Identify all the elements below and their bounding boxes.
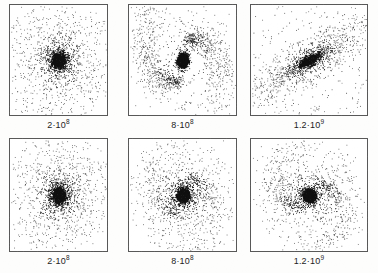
panel-bottom-middle-time-exponent: 8: [190, 254, 194, 261]
panel-top-left-scatter: [10, 5, 107, 115]
panel-top-right: [250, 4, 368, 116]
panel-bottom-right-time-label: 1.2·109: [250, 256, 368, 266]
panel-top-right-time-mantissa: 1.2·10: [294, 120, 321, 130]
figure-root: 2·1088·1081.2·1092·1088·1081.2·109: [0, 0, 378, 273]
panel-top-middle-time-exponent: 8: [190, 118, 194, 125]
panel-top-right-time-exponent: 9: [320, 118, 324, 125]
panel-top-left-time-exponent: 8: [66, 118, 70, 125]
panel-top-right-scatter: [251, 5, 367, 115]
panel-bottom-right-time-mantissa: 1.2·10: [294, 256, 321, 266]
panel-bottom-left-time-exponent: 8: [66, 254, 70, 261]
panel-top-middle: [128, 4, 237, 116]
panel-bottom-middle-time-label: 8·108: [128, 256, 237, 266]
panel-top-right-time-label: 1.2·109: [250, 120, 368, 130]
panel-top-middle-time-mantissa: 8·10: [171, 120, 190, 130]
panel-bottom-left: [9, 138, 108, 252]
panel-bottom-left-scatter: [10, 139, 107, 251]
panel-bottom-middle-scatter: [129, 139, 236, 251]
panel-bottom-right-time-exponent: 9: [320, 254, 324, 261]
panel-bottom-right: [250, 138, 368, 252]
panel-bottom-middle: [128, 138, 237, 252]
panel-top-left: [9, 4, 108, 116]
panel-top-left-time-label: 2·108: [9, 120, 108, 130]
panel-bottom-middle-time-mantissa: 8·10: [171, 256, 190, 266]
panel-top-left-time-mantissa: 2·10: [47, 120, 66, 130]
panel-bottom-left-time-mantissa: 2·10: [47, 256, 66, 266]
panel-bottom-right-scatter: [251, 139, 367, 251]
panel-top-middle-time-label: 8·108: [128, 120, 237, 130]
panel-top-middle-scatter: [129, 5, 236, 115]
panel-bottom-left-time-label: 2·108: [9, 256, 108, 266]
